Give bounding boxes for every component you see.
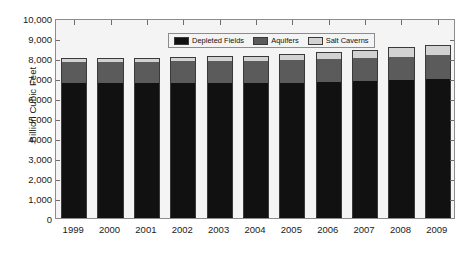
y-tick-mark: [56, 120, 60, 121]
bar-segment-depleted-fields: [170, 83, 196, 218]
y-tick-label: 8,000: [6, 54, 52, 65]
chart-figure: Billion Cubic Feet 01,0002,0003,0004,000…: [0, 0, 473, 259]
bar-2004: [243, 56, 269, 218]
x-tick-mark: [401, 20, 402, 25]
x-tick-mark: [147, 20, 148, 25]
bar-segment-aquifers: [134, 62, 160, 83]
bar-2001: [134, 58, 160, 218]
bar-segment-salt-caverns: [425, 45, 451, 56]
x-tick-mark: [111, 20, 112, 25]
bar-segment-depleted-fields: [207, 83, 233, 218]
bar-segment-depleted-fields: [316, 82, 342, 218]
bar-segment-depleted-fields: [352, 81, 378, 218]
bar-2007: [352, 50, 378, 218]
y-tick-label: 7,000: [6, 74, 52, 85]
y-tick-mark-right: [450, 200, 454, 201]
bar-segment-depleted-fields: [243, 83, 269, 218]
x-tick-mark: [292, 20, 293, 25]
bar-2000: [97, 58, 123, 218]
bar-2008: [388, 47, 414, 218]
bar-segment-aquifers: [61, 62, 87, 84]
bar-segment-depleted-fields: [279, 83, 305, 218]
bar-1999: [61, 58, 87, 218]
y-tick-label: 9,000: [6, 34, 52, 45]
legend-label-depleted-fields: Depleted Fields: [192, 37, 244, 45]
y-tick-mark: [56, 180, 60, 181]
x-tick-label: 2005: [281, 224, 302, 235]
plot-area: [55, 19, 455, 219]
x-tick-label: 2003: [208, 224, 229, 235]
x-tick-mark: [438, 20, 439, 25]
x-tick-mark: [183, 20, 184, 25]
chart-legend: Depleted Fields Aquifers Salt Caverns: [168, 33, 375, 48]
legend-item-salt-caverns: Salt Caverns: [308, 37, 369, 45]
y-tick-mark-right: [450, 100, 454, 101]
bar-segment-depleted-fields: [61, 83, 87, 218]
x-tick-label: 2006: [317, 224, 338, 235]
x-tick-mark: [329, 20, 330, 25]
x-tick-label: 2000: [99, 224, 120, 235]
y-tick-label: 2,000: [6, 174, 52, 185]
bar-2006: [316, 52, 342, 218]
y-tick-mark-right: [450, 60, 454, 61]
bar-2003: [207, 56, 233, 218]
y-tick-mark: [56, 80, 60, 81]
bar-2002: [170, 57, 196, 218]
bar-segment-aquifers: [352, 58, 378, 81]
bar-segment-salt-caverns: [316, 52, 342, 59]
x-tick-mark: [365, 20, 366, 25]
legend-swatch-salt-caverns: [308, 37, 323, 45]
legend-label-salt-caverns: Salt Caverns: [326, 37, 369, 45]
x-tick-label: 1999: [63, 224, 84, 235]
x-axis-tick-labels: 1999200020012002200320042005200620072008…: [55, 224, 455, 240]
bar-segment-depleted-fields: [388, 80, 414, 218]
x-tick-label: 2001: [135, 224, 156, 235]
x-tick-label: 2009: [426, 224, 447, 235]
y-tick-mark-right: [450, 80, 454, 81]
bar-group: [56, 20, 454, 218]
y-axis-tick-labels: 01,0002,0003,0004,0005,0006,0007,0008,00…: [6, 19, 52, 219]
x-tick-label: 2007: [354, 224, 375, 235]
bar-segment-depleted-fields: [134, 83, 160, 218]
bar-segment-aquifers: [388, 57, 414, 81]
x-tick-mark: [256, 20, 257, 25]
x-tick-mark: [74, 20, 75, 25]
bar-segment-depleted-fields: [97, 83, 123, 218]
y-tick-mark: [56, 160, 60, 161]
y-tick-label: 0: [6, 214, 52, 225]
y-tick-mark-right: [450, 40, 454, 41]
y-tick-mark: [56, 200, 60, 201]
x-tick-mark: [220, 20, 221, 25]
bar-segment-aquifers: [316, 59, 342, 82]
y-tick-mark: [56, 140, 60, 141]
legend-label-aquifers: Aquifers: [271, 37, 299, 45]
y-tick-label: 6,000: [6, 94, 52, 105]
legend-item-aquifers: Aquifers: [253, 37, 299, 45]
bar-segment-aquifers: [279, 60, 305, 83]
y-tick-mark: [56, 100, 60, 101]
y-tick-mark: [56, 60, 60, 61]
y-tick-label: 1,000: [6, 194, 52, 205]
legend-swatch-aquifers: [253, 37, 268, 45]
bar-2009: [425, 45, 451, 218]
bar-segment-aquifers: [243, 61, 269, 83]
x-tick-label: 2008: [390, 224, 411, 235]
y-tick-label: 5,000: [6, 114, 52, 125]
y-tick-label: 10,000: [6, 14, 52, 25]
y-tick-label: 3,000: [6, 154, 52, 165]
y-tick-mark-right: [450, 160, 454, 161]
bar-segment-aquifers: [97, 62, 123, 84]
legend-item-depleted-fields: Depleted Fields: [174, 37, 244, 45]
bar-segment-aquifers: [170, 61, 196, 82]
bar-segment-depleted-fields: [425, 79, 451, 218]
y-tick-mark-right: [450, 180, 454, 181]
bar-segment-salt-caverns: [388, 47, 414, 57]
bar-segment-salt-caverns: [352, 50, 378, 58]
y-tick-mark-right: [450, 140, 454, 141]
bar-segment-aquifers: [425, 55, 451, 79]
x-tick-label: 2002: [172, 224, 193, 235]
bar-2005: [279, 54, 305, 218]
legend-swatch-depleted-fields: [174, 37, 189, 45]
x-tick-label: 2004: [244, 224, 265, 235]
y-tick-label: 4,000: [6, 134, 52, 145]
